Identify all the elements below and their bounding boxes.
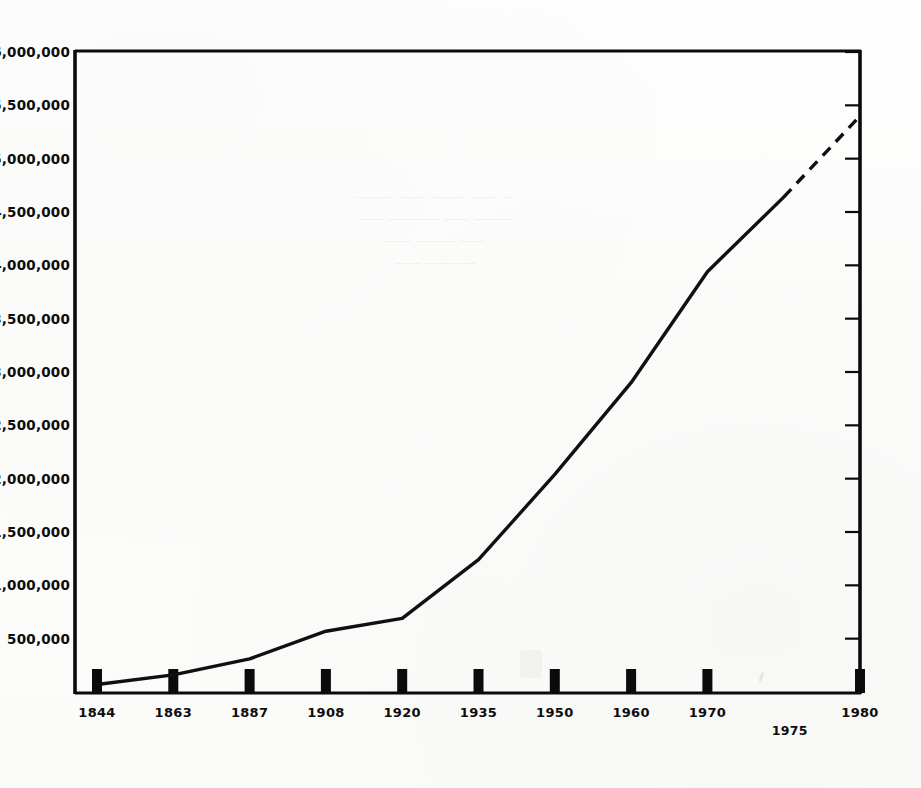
scan-smudge (520, 650, 542, 678)
population-growth-line-chart: 6,000,0005,500,0005,000,0004,500,0004,00… (0, 0, 921, 788)
x-axis-tick-label: 1935 (460, 705, 497, 720)
y-axis-tick-label: 4,000,000 (0, 257, 70, 273)
x-axis-tick-blocks (92, 669, 865, 693)
y-axis-tick-label: 5,000,000 (0, 151, 70, 167)
y-axis-tick-label: 1,000,000 (0, 577, 70, 593)
chart-frame (75, 50, 861, 694)
x-axis-tick-label: 1844 (78, 705, 115, 720)
x-axis-tick-label: 1970 (689, 705, 726, 720)
y-axis-tick-label: 5,500,000 (0, 97, 70, 113)
y-axis-tick-label: 6,000,000 (0, 44, 70, 60)
x-axis-tick-block (474, 669, 484, 693)
x-axis-tick-block (92, 669, 102, 693)
y-axis-tick-label: 4,500,000 (0, 204, 70, 220)
x-axis-offset-label-1975: 1975 (772, 723, 808, 738)
x-axis-tick-label: 1920 (384, 705, 421, 720)
population-line-observed (97, 197, 784, 684)
x-axis-tick-block (855, 669, 865, 693)
population-line-projection (784, 116, 860, 197)
y-axis-tick-label: 3,500,000 (0, 311, 70, 327)
y-axis-tick-label: 2,500,000 (0, 417, 70, 433)
x-axis-tick-label: 1980 (841, 705, 878, 720)
x-axis-tick-label: 1960 (612, 705, 649, 720)
y-axis-tick-label: 2,000,000 (0, 471, 70, 487)
chart-canvas: 6,000,0005,500,0005,000,0004,500,0004,00… (0, 0, 921, 788)
y-axis-tick-labels: 6,000,0005,500,0005,000,0004,500,0004,00… (0, 44, 70, 647)
x-axis-tick-label: 1950 (536, 705, 573, 720)
y-axis-tick-label: 1,500,000 (0, 524, 70, 540)
x-axis-tick-block (397, 669, 407, 693)
right-axis-tick-marks (845, 52, 860, 639)
x-axis-tick-label: 1863 (155, 705, 192, 720)
x-axis-tick-block (550, 669, 560, 693)
x-axis-tick-block (321, 669, 331, 693)
x-axis-tick-block (702, 669, 712, 693)
x-axis-tick-block (245, 669, 255, 693)
x-axis-tick-label: 1887 (231, 705, 268, 720)
x-axis-tick-block (626, 669, 636, 693)
x-axis-tick-labels: 1844186318871908192019351950196019701980… (78, 705, 878, 738)
x-axis-tick-label: 1908 (307, 705, 344, 720)
y-axis-tick-label: 500,000 (7, 631, 70, 647)
y-axis-tick-label: 3,000,000 (0, 364, 70, 380)
